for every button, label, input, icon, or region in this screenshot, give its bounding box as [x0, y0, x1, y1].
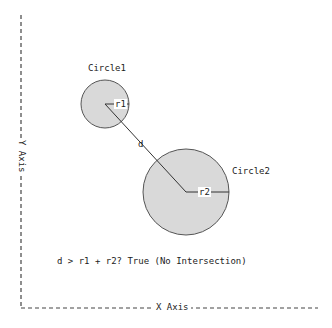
circle2-label: Circle2 [232, 166, 270, 176]
x-axis-label: X Axis [154, 302, 191, 312]
distance-label: d [138, 139, 143, 149]
r1-label: r1 [114, 99, 127, 109]
diagram-canvas [0, 0, 332, 328]
circle1-label: Circle1 [88, 63, 126, 73]
condition-text: d > r1 + r2? True (No Intersection) [57, 256, 247, 266]
y-axis-label: Y Axis [17, 138, 27, 175]
r2-label: r2 [198, 187, 211, 197]
